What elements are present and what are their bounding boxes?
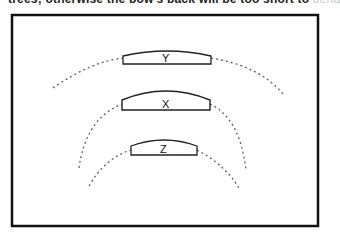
label-y: Y xyxy=(162,52,170,64)
arc-outer-left xyxy=(53,58,123,88)
arc-outer-right xyxy=(211,58,283,94)
diagram-frame xyxy=(12,15,318,226)
arc-inner-right xyxy=(197,150,240,190)
label-z: Z xyxy=(160,143,167,155)
arc-inner-left xyxy=(89,150,131,186)
label-x: X xyxy=(162,98,170,110)
arc-middle-right xyxy=(210,104,246,170)
arc-middle-left xyxy=(79,104,122,168)
